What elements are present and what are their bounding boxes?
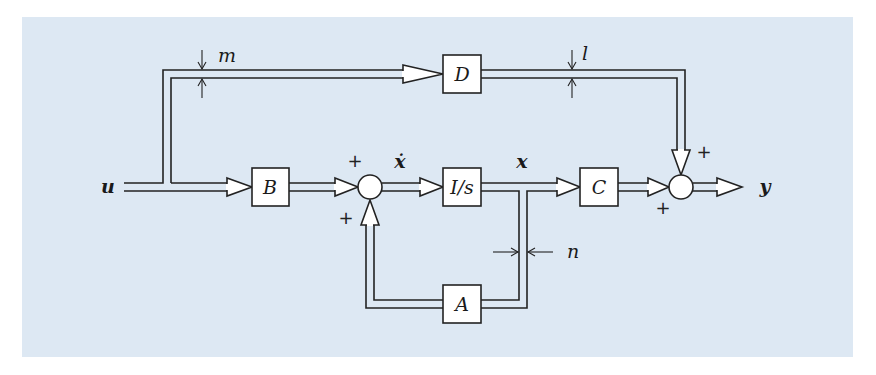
dimension-l-label: l xyxy=(582,42,588,64)
signal-u-label: u xyxy=(101,175,115,197)
bus-c-to-sum2 xyxy=(618,178,669,196)
block-c-label: C xyxy=(592,176,607,198)
block-diagram: B I/s C D A u ẋ x y m l n + + + + xyxy=(0,0,876,375)
block-b-label: B xyxy=(262,176,277,198)
bus-sum2-to-y xyxy=(693,178,742,196)
block-d-label: D xyxy=(453,63,469,85)
block-a-label: A xyxy=(453,293,469,315)
signal-x-label: x xyxy=(515,150,528,172)
summing-junction-1[interactable] xyxy=(358,175,382,199)
dimension-marker-m xyxy=(198,50,206,98)
bus-integrator-to-c xyxy=(481,178,580,308)
bus-b-to-sum1 xyxy=(289,178,358,196)
signal-y-label: y xyxy=(758,175,772,197)
bus-d-to-sum2 xyxy=(481,70,690,175)
sum2-sign-top: + xyxy=(696,141,711,162)
sum2-sign-bottom: + xyxy=(655,197,670,218)
summing-junction-2[interactable] xyxy=(669,175,693,199)
bus-sum1-to-integrator xyxy=(382,178,443,196)
dimension-marker-n xyxy=(493,248,553,256)
bus-a-to-sum1 xyxy=(361,200,443,308)
sum1-sign-bottom: + xyxy=(338,207,353,228)
signal-xdot-label: ẋ xyxy=(393,150,406,172)
dimension-n-label: n xyxy=(567,240,579,262)
dimension-marker-l xyxy=(568,50,576,98)
block-integrator-label: I/s xyxy=(449,176,474,198)
arrow-into-d xyxy=(403,65,443,83)
sum1-sign-top: + xyxy=(347,150,362,171)
dimension-m-label: m xyxy=(218,44,236,66)
